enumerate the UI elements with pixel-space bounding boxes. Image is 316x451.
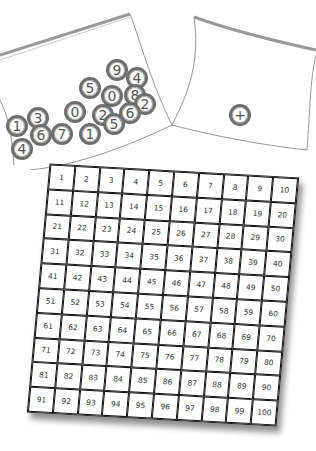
chart-cell: 64 [109, 317, 136, 343]
chart-cell: 44 [113, 268, 140, 294]
chart-cell: 9 [246, 176, 273, 202]
chart-cell: 40 [264, 251, 291, 277]
chart-cell: 96 [152, 394, 179, 420]
chart-cell: 29 [242, 225, 269, 251]
number-counter: + [229, 104, 251, 126]
chart-cell: 7 [197, 173, 224, 199]
chart-cell: 55 [136, 294, 163, 320]
number-counter: 5 [79, 77, 101, 99]
chart-cell: 25 [143, 219, 170, 245]
chart-cell: 41 [39, 263, 66, 289]
chart-cell: 20 [269, 202, 296, 228]
chart-cell: 54 [111, 292, 138, 318]
number-counter: 1 [79, 123, 101, 145]
chart-cell: 4 [122, 169, 149, 195]
chart-cell: 15 [145, 195, 172, 221]
chart-cell: 18 [219, 199, 246, 225]
chart-cell: 13 [95, 192, 122, 218]
chart-cell: 92 [53, 388, 80, 414]
chart-cell: 95 [127, 392, 154, 418]
chart-cell: 32 [66, 240, 93, 266]
chart-cell: 91 [28, 387, 55, 413]
chart-cell: 33 [91, 241, 118, 267]
chart-cell: 74 [107, 342, 134, 368]
chart-cell: 38 [215, 248, 242, 274]
chart-cell: 49 [237, 274, 264, 300]
chart-cell: 2 [73, 166, 100, 192]
chart-cell: 11 [46, 189, 73, 215]
chart-cell: 63 [84, 316, 111, 342]
chart-cell: 66 [158, 320, 185, 346]
chart-cell: 53 [86, 291, 113, 317]
chart-cell: 98 [201, 397, 228, 423]
chart-cell: 89 [228, 373, 255, 399]
chart-cell: 3 [98, 167, 125, 193]
chart-cell: 90 [253, 375, 280, 401]
chart-cell: 87 [179, 371, 206, 397]
chart-cell: 12 [71, 191, 98, 217]
chart-cell: 23 [93, 217, 120, 243]
chart-cell: 86 [154, 369, 181, 395]
chart-cell: 21 [44, 214, 71, 240]
chart-cell: 17 [195, 198, 222, 224]
chart-cell: 84 [104, 366, 131, 392]
chart-cell: 26 [167, 221, 194, 247]
chart-cell: 14 [120, 193, 147, 219]
chart-cell: 62 [59, 314, 86, 340]
chart-cell: 42 [64, 265, 91, 291]
chart-cell: 1 [48, 165, 75, 191]
chart-cell: 70 [258, 325, 285, 351]
number-counter: 4 [11, 138, 33, 160]
chart-cell: 31 [41, 239, 68, 265]
chart-cell: 35 [140, 244, 167, 270]
chart-cell: 51 [37, 288, 64, 314]
chart-cell: 60 [260, 301, 287, 327]
chart-cell: 99 [226, 398, 253, 424]
chart-cell: 16 [170, 196, 197, 222]
chart-cell: 39 [240, 250, 267, 276]
chart-cell: 19 [244, 200, 271, 226]
chart-cell: 6 [172, 171, 199, 197]
chart-cell: 43 [89, 266, 116, 292]
chart-cell: 77 [181, 346, 208, 372]
number-counter: 1 [6, 115, 28, 137]
hundred-chart: 1234567891011121314151617181920212223242… [27, 163, 299, 426]
chart-cell: 36 [165, 246, 192, 272]
chart-cell: 61 [35, 313, 62, 339]
chart-cell: 68 [208, 322, 235, 348]
chart-cell: 59 [235, 299, 262, 325]
chart-cell: 52 [62, 289, 89, 315]
chart-cell: 34 [116, 243, 143, 269]
chart-cell: 57 [186, 296, 213, 322]
chart-cell: 75 [131, 343, 158, 369]
chart-cell: 71 [32, 337, 59, 363]
hundred-chart-grid: 1234567891011121314151617181920212223242… [27, 163, 299, 426]
chart-cell: 67 [183, 321, 210, 347]
chart-cell: 85 [129, 368, 156, 394]
chart-cell: 100 [251, 399, 278, 425]
chart-cell: 45 [138, 269, 165, 295]
chart-cell: 82 [55, 364, 82, 390]
chart-cell: 24 [118, 218, 145, 244]
chart-cell: 46 [163, 270, 190, 296]
chart-cell: 79 [231, 349, 258, 375]
chart-cell: 56 [161, 295, 188, 321]
chart-cell: 50 [262, 276, 289, 302]
number-counter: 6 [30, 124, 52, 146]
number-counter: 7 [51, 123, 73, 145]
chart-cell: 58 [210, 298, 237, 324]
chart-cell: 73 [82, 340, 109, 366]
chart-cell: 22 [68, 215, 95, 241]
chart-cell: 30 [267, 226, 294, 252]
chart-cell: 37 [190, 247, 217, 273]
chart-cell: 93 [77, 390, 104, 416]
chart-cell: 8 [222, 174, 249, 200]
chart-cell: 10 [271, 177, 298, 203]
number-counter: 0 [64, 101, 86, 123]
chart-cell: 48 [213, 273, 240, 299]
chart-cell: 83 [80, 365, 107, 391]
chart-cell: 47 [188, 272, 215, 298]
chart-cell: 78 [206, 347, 233, 373]
chart-cell: 80 [255, 350, 282, 376]
chart-cell: 97 [177, 395, 204, 421]
